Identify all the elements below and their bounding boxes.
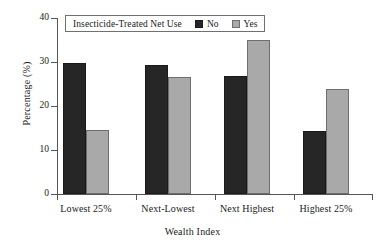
y-axis-tick-label-30: 30: [19, 57, 49, 67]
legend-swatch-no-icon: [195, 20, 203, 28]
bar-chart-figure: Percentage (%) 40 30 20 10 0 Lowest 25% …: [0, 0, 385, 248]
bar-no-lowest-25: [63, 63, 86, 194]
y-axis-tick-40: [51, 18, 57, 19]
bar-yes-next-lowest: [168, 77, 191, 194]
legend-entry-no: No: [195, 19, 219, 29]
y-axis-tick-label-20: 20: [19, 101, 49, 111]
x-axis-tick-2: [215, 194, 216, 200]
bar-yes-highest-25: [326, 89, 349, 194]
bar-no-next-lowest: [145, 65, 168, 194]
legend-entry-yes: Yes: [232, 19, 258, 29]
bar-yes-lowest-25: [86, 130, 109, 194]
bar-no-highest-25: [303, 131, 326, 194]
legend-title: Insecticide-Treated Net Use: [73, 19, 182, 29]
x-axis-tick-4: [372, 194, 373, 200]
x-axis-tick-0: [57, 194, 58, 200]
y-axis-line: [57, 18, 58, 195]
y-axis-tick-20: [51, 106, 57, 107]
bar-yes-next-highest: [247, 40, 270, 194]
y-axis-label: Percentage (%): [21, 24, 32, 164]
y-axis-tick-label-10: 10: [19, 145, 49, 155]
x-axis-label: Wealth Index: [0, 226, 385, 237]
bar-no-next-highest: [224, 76, 247, 194]
y-axis-tick-label-40: 40: [19, 13, 49, 23]
legend-swatch-yes-icon: [232, 20, 240, 28]
legend-label-no: No: [207, 19, 219, 29]
y-axis-tick-10: [51, 150, 57, 151]
y-axis-tick-30: [51, 62, 57, 63]
x-axis-category-label-highest-25: Highest 25%: [271, 203, 381, 214]
x-axis-tick-3: [294, 194, 295, 200]
y-axis-tick-label-0: 0: [19, 189, 49, 199]
legend-label-yes: Yes: [244, 19, 258, 29]
x-axis-tick-1: [136, 194, 137, 200]
legend: Insecticide-Treated Net Use No Yes: [65, 15, 265, 32]
